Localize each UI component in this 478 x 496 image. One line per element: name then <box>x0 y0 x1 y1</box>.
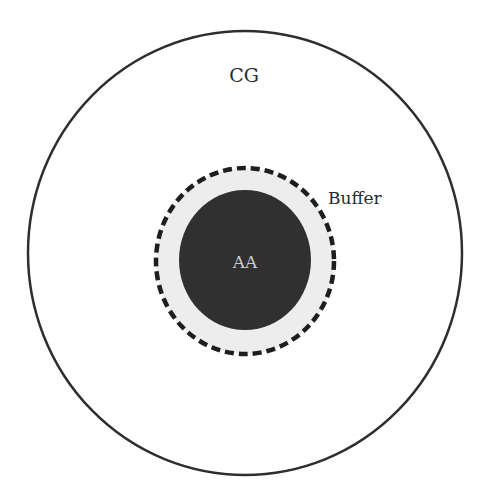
cg-label: CG <box>229 64 259 86</box>
buffer-label: Buffer <box>328 188 383 208</box>
nested-regions-diagram: CG Buffer AA <box>0 0 478 496</box>
aa-label: AA <box>232 252 258 272</box>
